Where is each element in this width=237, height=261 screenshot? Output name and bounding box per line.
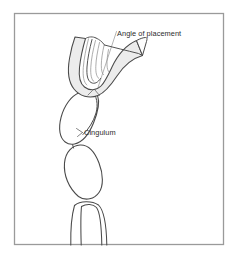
dental-diagram: Angle of placement Cingulum xyxy=(0,0,237,261)
angle-of-placement-label: Angle of placement xyxy=(117,29,181,38)
figure-frame xyxy=(15,14,224,245)
cingulum-label: Cingulum xyxy=(84,128,116,137)
figure-container: Angle of placement Cingulum xyxy=(0,0,237,261)
